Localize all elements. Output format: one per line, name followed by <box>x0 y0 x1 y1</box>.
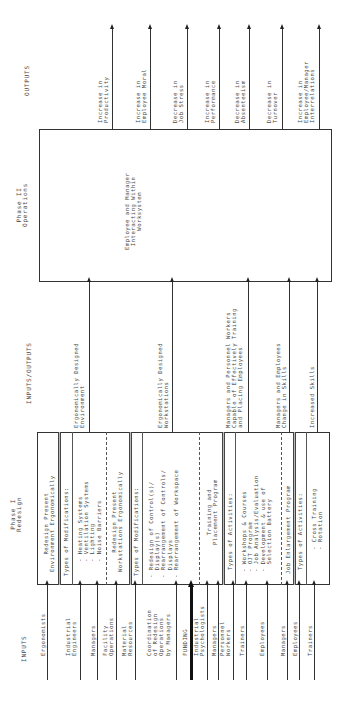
phase1-divider <box>222 432 225 585</box>
outputs-header: OUTPUTS <box>24 65 30 96</box>
intermediate-label-change-skills: Managers and Employees Change in Skills <box>275 343 287 428</box>
phase1-divider-dashed <box>106 432 107 585</box>
intermediate-arrow-3 <box>248 282 249 432</box>
intermediate-arrow-1 <box>89 282 90 432</box>
phase1-divider <box>72 432 73 585</box>
input-label-managers-2: Managers <box>211 625 217 656</box>
input-label-trainers-2: Trainers <box>307 625 313 656</box>
input-label-personnel-workers: Personnel Workers <box>219 621 231 656</box>
output-arrow-2 <box>150 29 151 129</box>
output-label-interrelations: Increase in Employee/Manager Interrelati… <box>297 61 316 123</box>
phase2-box <box>39 129 332 282</box>
phase1-types-modifications-2: Types of Modifications: <box>133 487 139 576</box>
input-arrow-12 <box>267 585 268 680</box>
phase1-training-placement: Training and Placement Program <box>206 479 218 545</box>
input-arrow-11 <box>246 585 247 680</box>
intermediate-arrow-4 <box>289 282 290 432</box>
phase1-redesign-environment: Redesign Present Environment Ergonomical… <box>43 475 55 572</box>
phase1-environment-list: - Heating Systems - Ventilation Systems … <box>77 481 102 562</box>
input-label-ergonomists: Ergonomists <box>40 613 46 656</box>
inputs-header: INPUTS <box>21 636 27 662</box>
input-arrow-1 <box>47 585 48 680</box>
output-arrow-1 <box>112 29 113 129</box>
output-label-morale: Increase in Employee Moral <box>135 69 147 123</box>
phase1-divider-dashed <box>281 432 282 585</box>
phase1-redesign-workstations: Redesign Present Workstations Ergonomica… <box>111 471 123 572</box>
input-label-industrial-engineers: Industrial Engineers <box>65 617 77 656</box>
phase2-title: Phase II Operations <box>16 183 28 227</box>
inputs-outputs-header: INPUTS/OUTPUTS <box>26 342 32 404</box>
phase1-divider <box>58 432 61 585</box>
output-arrow-3 <box>187 29 188 129</box>
phase1-job-enlargement-list: - Cross Training - Rotation <box>311 488 323 550</box>
input-arrow-4 <box>116 585 117 680</box>
intermediate-arrow-2 <box>172 282 173 432</box>
intermediate-label-training: Managers and Personnel Workers Capable o… <box>225 308 244 428</box>
phase2-body: Employee and Manager Interacting Within … <box>124 173 143 250</box>
input-arrow-13 <box>287 585 288 680</box>
input-label-employees-2: Employees <box>292 621 298 656</box>
input-label-managers-3: Managers <box>280 625 286 656</box>
output-label-stress: Decrease in Job Stress <box>172 80 184 123</box>
input-label-funding: FUNDING <box>182 629 188 656</box>
output-arrow-6 <box>282 29 283 129</box>
output-arrow-7 <box>319 29 320 129</box>
input-arrow-6 <box>176 585 177 680</box>
output-arrow-4 <box>219 29 220 129</box>
output-label-productivity: Increase in Productivity <box>97 77 109 123</box>
input-arrow-10 <box>233 585 234 680</box>
phase1-divider <box>306 432 307 585</box>
phase1-job-enlargement: Job Enlargement Program <box>285 485 291 574</box>
input-label-managers-1: Managers <box>90 625 96 656</box>
output-arrow-5 <box>249 29 250 129</box>
input-arrow-8 <box>207 585 208 680</box>
output-label-performance: Increase in Performance <box>204 80 216 123</box>
intermediate-label-environment: Ergonomically Designed Environment <box>73 343 85 428</box>
input-label-industrial-psychologists: Industrial Psychologists <box>193 606 205 656</box>
phase1-training-list: - Workshops & Courses - OJT Program - Jo… <box>241 475 272 572</box>
input-label-material-resources: Material Resources <box>121 621 133 656</box>
input-label-coordination: Coordination of Redesign Operations by M… <box>146 610 171 656</box>
phase1-workstation-list: - Redesign of Control(s)/ Display(s) - R… <box>148 470 179 578</box>
input-label-trainers-1: Trainers <box>239 625 245 656</box>
phase1-title: Phase I Redesign <box>10 497 22 532</box>
phase1-divider <box>293 432 296 585</box>
phase1-divider-dashed <box>199 432 200 585</box>
intermediate-label-increased-skills: Increased Skills <box>309 366 315 428</box>
output-label-turnover: Decrease in Turnover <box>266 80 278 123</box>
phase1-divider <box>235 432 236 585</box>
input-label-facility-operations: Facility Operations <box>102 617 114 656</box>
output-label-absenteeism: Decrease in Absenteeism <box>234 80 246 123</box>
input-arrow-14 <box>299 585 300 680</box>
phase1-divider <box>129 432 132 585</box>
input-label-employees-1: Employees <box>259 621 265 656</box>
input-arrow-2 <box>80 585 81 680</box>
phase1-types-activities-1: Types of Activities: <box>227 493 233 570</box>
input-arrow-5 <box>135 585 136 680</box>
phase1-types-modifications-1: Types of Modifications: <box>63 487 69 576</box>
input-arrow-15 <box>314 585 315 680</box>
intermediate-arrow-5 <box>317 282 318 432</box>
input-arrow-3 <box>97 585 98 680</box>
phase1-types-activities-2: Types of Activities: <box>297 493 303 570</box>
phase1-divider <box>142 432 143 585</box>
intermediate-label-workstations: Ergonomically Designed Workstations <box>157 343 169 428</box>
